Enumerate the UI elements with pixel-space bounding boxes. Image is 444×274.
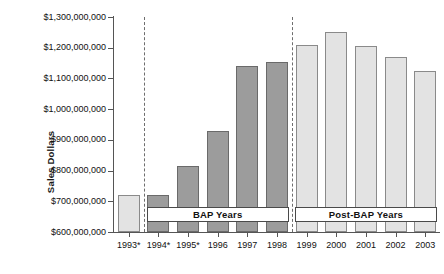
y-axis-tick-label: $700,000,000 — [2, 197, 106, 206]
y-axis-tick — [108, 140, 113, 141]
bar-1993-est — [118, 195, 140, 232]
y-axis-tick — [108, 78, 113, 79]
y-axis-tick-label: $900,000,000 — [2, 135, 106, 144]
bar-1995-est — [177, 166, 199, 232]
y-axis-tick — [108, 48, 113, 49]
x-axis-tick — [277, 233, 278, 237]
period-divider-after-1993-est — [144, 17, 145, 232]
y-axis-tick-label: $1,200,000,000 — [2, 43, 106, 52]
y-axis-tick — [108, 171, 113, 172]
y-axis-tick — [108, 109, 113, 110]
x-axis-tick — [129, 233, 130, 237]
bar-2000 — [325, 32, 347, 232]
sales-dollars-bar-chart: Sales Dollars $1,300,000,000$1,200,000,0… — [0, 0, 444, 274]
x-axis-label-2000: 2000 — [321, 240, 351, 250]
x-axis-label-1994-est: 1994* — [144, 240, 174, 250]
x-axis-label-2003: 2003 — [410, 240, 440, 250]
x-axis-label-1999: 1999 — [292, 240, 322, 250]
y-axis-tick-label: $1,100,000,000 — [2, 74, 106, 83]
x-axis-tick — [218, 233, 219, 237]
x-axis-label-1997: 1997 — [233, 240, 263, 250]
x-axis-label-1998: 1998 — [262, 240, 292, 250]
x-axis-label-1993-est: 1993* — [114, 240, 144, 250]
x-axis-label-1995-est: 1995* — [173, 240, 203, 250]
x-axis-tick — [425, 233, 426, 237]
period-banner-bap-years: BAP Years — [147, 207, 289, 222]
x-axis-label-2002: 2002 — [381, 240, 411, 250]
y-axis-tick-labels: $1,300,000,000$1,200,000,000$1,100,000,0… — [0, 0, 106, 274]
period-divider-after-1998 — [292, 17, 293, 232]
x-axis-tick — [307, 233, 308, 237]
x-axis-tick — [247, 233, 248, 237]
period-banner-post-bap-years: Post-BAP Years — [295, 207, 437, 222]
bar-2001 — [355, 46, 377, 232]
y-axis-tick — [108, 232, 113, 233]
x-axis-tick — [158, 233, 159, 237]
y-axis-tick-label: $600,000,000 — [2, 228, 106, 237]
x-axis-label-1996: 1996 — [203, 240, 233, 250]
bar-1999 — [296, 45, 318, 232]
y-axis-tick-label: $1,000,000,000 — [2, 105, 106, 114]
y-axis-tick — [108, 17, 113, 18]
y-axis-tick — [108, 201, 113, 202]
x-axis-tick — [366, 233, 367, 237]
y-axis-tick-label: $1,300,000,000 — [2, 13, 106, 22]
y-axis-tick-label: $800,000,000 — [2, 166, 106, 175]
cut-caption-strip — [8, 268, 338, 272]
bar-2002 — [385, 57, 407, 232]
x-axis-tick — [396, 233, 397, 237]
x-axis-tick — [188, 233, 189, 237]
x-axis-tick — [336, 233, 337, 237]
x-axis-label-2001: 2001 — [351, 240, 381, 250]
